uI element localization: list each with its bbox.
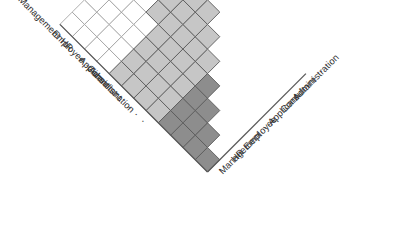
matrix-figure: ManagementHREmployee· · ·ApplicantConsul… (0, 0, 395, 231)
matrix-cells-layer (60, 0, 306, 172)
rotated-matrix-diagram: ManagementHREmployee· · ·ApplicantConsul… (0, 0, 395, 231)
matrix-right-edge (208, 74, 306, 172)
